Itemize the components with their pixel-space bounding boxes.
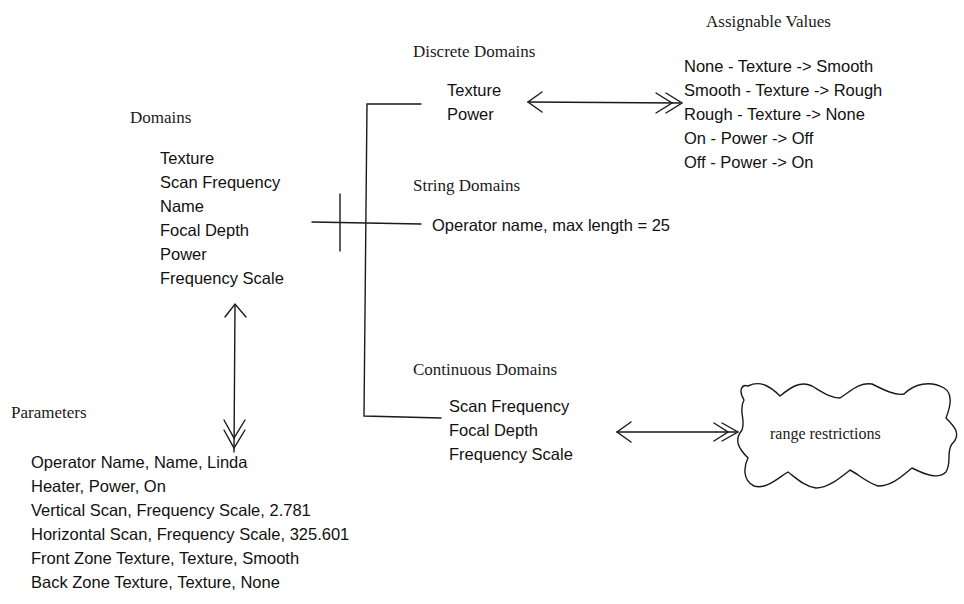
domain-item: Frequency Scale	[160, 266, 284, 290]
domains-title: Domains	[130, 108, 191, 128]
assignable-value-item: On - Power -> Off	[684, 126, 882, 150]
domains-parameters-arrow-shaft	[234, 305, 235, 452]
assignable-value-item: None - Texture -> Smooth	[684, 54, 882, 78]
continuous-domain-item: Frequency Scale	[449, 442, 573, 466]
discrete-values-arrow-shaft	[528, 102, 680, 103]
continuous-domains-title: Continuous Domains	[413, 360, 557, 380]
discrete-domain-item: Texture	[447, 78, 501, 102]
assignable-values-title: Assignable Values	[706, 12, 831, 32]
parameter-item: Horizontal Scan, Frequency Scale, 325.60…	[31, 522, 349, 546]
domain-item: Texture	[160, 146, 284, 170]
discrete-domains-title: Discrete Domains	[413, 42, 535, 62]
parameter-item: Heater, Power, On	[31, 474, 349, 498]
continuous-domain-item: Focal Depth	[449, 418, 573, 442]
range-restrictions-label: range restrictions	[770, 425, 881, 443]
domain-item: Scan Frequency	[160, 170, 284, 194]
domain-item: Focal Depth	[160, 218, 284, 242]
string-domain-connector	[312, 222, 421, 224]
parameter-item: Back Zone Texture, Texture, None	[31, 570, 349, 594]
string-domains-title: String Domains	[413, 176, 520, 196]
assignable-value-item: Smooth - Texture -> Rough	[684, 78, 882, 102]
string-domain-item: Operator name, max length = 25	[432, 213, 670, 237]
parameter-item: Front Zone Texture, Texture, Smooth	[31, 546, 349, 570]
discrete-domain-item: Power	[447, 102, 501, 126]
domain-item: Power	[160, 242, 284, 266]
assignable-value-item: Off - Power -> On	[684, 150, 882, 174]
assignable-values-list: None - Texture -> Smooth Smooth - Textur…	[684, 54, 882, 174]
continuous-domain-item: Scan Frequency	[449, 394, 573, 418]
parameter-item: Vertical Scan, Frequency Scale, 2.781	[31, 498, 349, 522]
domains-list: Texture Scan Frequency Name Focal Depth …	[160, 146, 284, 290]
continuous-domains-list: Scan Frequency Focal Depth Frequency Sca…	[449, 394, 573, 466]
domain-item: Name	[160, 194, 284, 218]
parameter-item: Operator Name, Name, Linda	[31, 450, 349, 474]
discrete-domains-list: Texture Power	[447, 78, 501, 126]
parameters-list: Operator Name, Name, Linda Heater, Power…	[31, 450, 349, 594]
parameters-title: Parameters	[11, 403, 87, 423]
assignable-value-item: Rough - Texture -> None	[684, 102, 882, 126]
